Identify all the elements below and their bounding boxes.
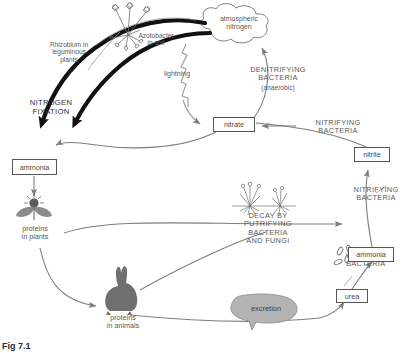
urea-box: urea <box>336 289 368 303</box>
ammonia-right-box: ammonia <box>348 247 394 262</box>
excretion-to-urea-arrow <box>320 302 344 318</box>
lightning-arrow <box>181 44 200 124</box>
nitrate-to-plants-line <box>56 132 216 148</box>
ammonia-left-box: ammonia <box>12 159 57 175</box>
atmospheric-nitrogen-cloud <box>201 4 268 43</box>
ammonia-right-label: ammonia <box>356 250 386 259</box>
decaying-plants-icon <box>232 182 296 215</box>
figure-caption: Fig 7.1 <box>2 341 31 351</box>
ammonia-to-nitrite-arrow <box>366 170 372 247</box>
nitrite-to-nitrate-line <box>256 123 366 147</box>
nitrogen-cycle-figure: atmospheric nitrogen Rhizobium in legumi… <box>0 0 415 353</box>
urea-to-ammonia-arrow <box>352 262 372 289</box>
nitrogen-fixation-arrows <box>42 18 210 123</box>
nitrifying-tick-line <box>376 186 386 193</box>
denitrification-arrow <box>252 48 268 120</box>
flowering-plant-icon <box>16 194 52 220</box>
plants-to-animals-arrow <box>40 248 96 306</box>
urea-bacteria-tick-line <box>344 276 352 286</box>
nitrite-label: nitrite <box>363 150 381 159</box>
nitrate-label: nitrate <box>224 120 244 129</box>
excretion-callout <box>231 294 297 330</box>
nitrite-box: nitrite <box>354 147 390 162</box>
ammonia-left-label: ammonia <box>20 163 50 172</box>
urea-label: urea <box>345 292 359 301</box>
nitrate-box: nitrate <box>213 117 255 132</box>
rabbit-icon <box>105 266 137 315</box>
animals-to-decay-line <box>140 232 266 290</box>
plants-to-decay-line <box>64 223 300 233</box>
